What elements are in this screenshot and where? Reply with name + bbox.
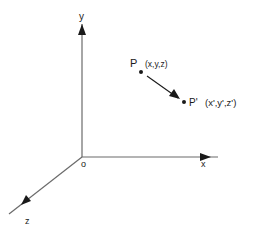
- y-axis-label: y: [79, 11, 84, 22]
- y-axis-arrowhead-icon: [78, 24, 86, 35]
- translation-arrowhead-icon: [169, 89, 180, 99]
- z-axis-arrowhead-icon: [21, 195, 31, 205]
- coordinate-diagram: y x z o P (x,y,z) P': [0, 0, 260, 227]
- translation-arrow: [147, 76, 180, 99]
- point-p-prime-dot-icon: [182, 100, 186, 104]
- z-axis-label: z: [25, 216, 30, 226]
- point-p-prime: P' (x',y',z'): [182, 97, 236, 108]
- y-axis: y: [78, 11, 86, 157]
- point-p-prime-coords: (x',y',z'): [205, 97, 236, 108]
- point-p: P (x,y,z): [130, 57, 168, 74]
- point-p-coords: (x,y,z): [145, 59, 168, 69]
- diagram-svg: y x z o P (x,y,z) P': [0, 0, 260, 227]
- x-axis-label: x: [201, 159, 206, 169]
- point-p-prime-name: P': [189, 97, 198, 108]
- x-axis: x: [82, 153, 218, 169]
- z-axis: z: [9, 157, 82, 226]
- origin-label: o: [81, 159, 86, 169]
- point-p-name: P: [130, 57, 137, 69]
- point-p-dot-icon: [139, 70, 143, 74]
